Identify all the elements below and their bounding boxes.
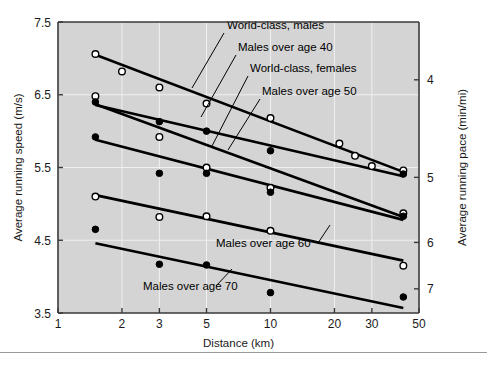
ytick-label-left: 7.5 [34, 16, 51, 30]
xtick-label: 3 [156, 317, 163, 331]
data-point-filled [92, 134, 99, 141]
data-point-filled [92, 226, 99, 233]
xtick-label: 50 [412, 317, 426, 331]
data-point-open [336, 140, 343, 147]
data-point-open [203, 213, 210, 220]
data-point-filled [267, 189, 274, 196]
data-point-filled [267, 147, 274, 154]
data-point-open [156, 214, 163, 221]
data-point-filled [267, 289, 274, 296]
figure-container: World-class, malesMales over age 40World… [0, 0, 487, 366]
xtick-label: 2 [119, 317, 126, 331]
y-axis-title-left: Average running speed (m/s) [12, 93, 24, 241]
data-point-filled [156, 261, 163, 268]
data-point-filled [156, 118, 163, 125]
ytick-label-left: 3.5 [34, 307, 51, 321]
xtick-label: 5 [203, 317, 210, 331]
annotation-label: Males over age 40 [238, 41, 333, 53]
data-point-filled [203, 170, 210, 177]
y-axis-title-right: Average running pace (min/mi) [456, 89, 468, 246]
xtick-label: 30 [365, 317, 379, 331]
data-point-open [400, 262, 407, 269]
ytick-label-right: 4 [427, 73, 434, 87]
data-point-open [352, 153, 359, 160]
data-point-open [156, 134, 163, 141]
x-axis-title: Distance (km) [203, 337, 274, 349]
data-point-open [267, 227, 274, 234]
bottom-divider-rule [0, 352, 487, 353]
xtick-label: 20 [328, 317, 342, 331]
data-point-filled [400, 213, 407, 220]
xtick-label: 1 [55, 317, 62, 331]
ytick-label-left: 5.5 [34, 161, 51, 175]
data-point-open [92, 193, 99, 200]
data-point-open [156, 84, 163, 91]
ytick-label-left: 4.5 [34, 234, 51, 248]
xtick-label: 10 [264, 317, 278, 331]
data-point-filled [92, 99, 99, 106]
data-point-filled [400, 171, 407, 178]
data-point-filled [400, 294, 407, 301]
annotation-label: Males over age 50 [262, 85, 357, 97]
ytick-label-right: 6 [427, 236, 434, 250]
data-point-filled [156, 170, 163, 177]
chart-svg: World-class, malesMales over age 40World… [0, 0, 487, 366]
annotation-label: World-class, females [250, 62, 357, 74]
data-point-open [119, 68, 126, 75]
ytick-label-right: 7 [427, 282, 434, 296]
annotation-label: Males over age 60 [216, 237, 311, 249]
ytick-label-right: 5 [427, 171, 434, 185]
data-point-filled [203, 128, 210, 135]
data-point-open [92, 51, 99, 58]
ytick-label-left: 6.5 [34, 88, 51, 102]
annotation-label: World-class, males [227, 19, 324, 31]
data-point-open [369, 163, 376, 170]
data-point-open [267, 115, 274, 122]
data-point-filled [203, 262, 210, 269]
annotation-label: Males over age 70 [143, 280, 238, 292]
